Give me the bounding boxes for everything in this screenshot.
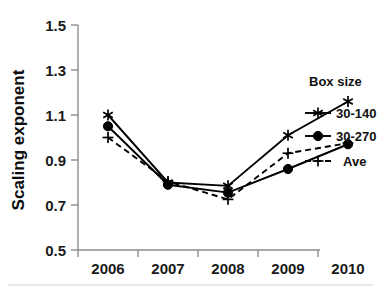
legend-title: Box size xyxy=(309,74,362,89)
y-tick-label-0: 0.5 xyxy=(45,242,66,259)
data-point-30-270-2006 xyxy=(103,122,112,131)
data-point-30-270-2009 xyxy=(283,164,292,173)
y-tick-label-4: 1.3 xyxy=(45,62,66,79)
legend-label-30-140: 30-140 xyxy=(336,106,376,121)
y-tick-label-3: 1.1 xyxy=(45,107,66,124)
y-axis-title: Scaling exponent xyxy=(9,69,28,210)
x-tick-label-2010: 2010 xyxy=(331,260,364,277)
legend-label-ave: Ave xyxy=(343,154,366,169)
y-tick-label-1: 0.7 xyxy=(45,197,66,214)
x-tick-label-2008: 2008 xyxy=(211,260,244,277)
y-tick-label-2: 0.9 xyxy=(45,152,66,169)
y-tick-label-5: 1.5 xyxy=(45,17,66,34)
scaling-exponent-line-chart: Scaling exponent 1.5 1.3 1.1 0.9 0.7 0.5 xyxy=(0,0,381,287)
filled-circle-icon xyxy=(283,164,292,173)
legend-label-30-270: 30-270 xyxy=(336,129,376,144)
chart-figure: Scaling exponent 1.5 1.3 1.1 0.9 0.7 0.5 xyxy=(0,0,381,287)
filled-circle-icon xyxy=(103,122,112,131)
x-tick-label-2006: 2006 xyxy=(91,260,124,277)
filled-circle-icon xyxy=(313,131,322,140)
x-tick-label-2009: 2009 xyxy=(271,260,304,277)
x-tick-label-2007: 2007 xyxy=(151,260,184,277)
